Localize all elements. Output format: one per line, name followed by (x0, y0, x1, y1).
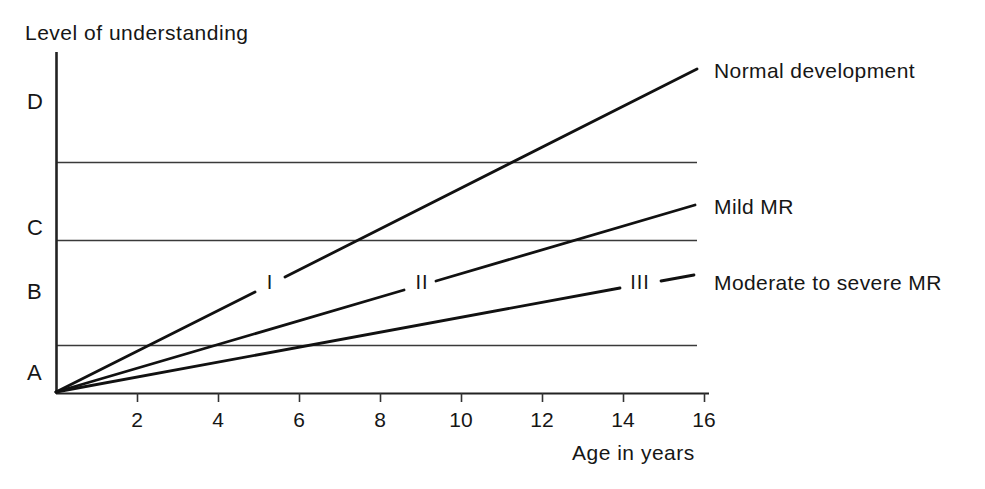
series-label-moderate-to-severe-mr: Moderate to severe MR (714, 272, 942, 293)
series-marker-iii: III (623, 272, 657, 292)
x-axis-title: Age in years (572, 442, 695, 463)
x-tick-label-14: 14 (603, 409, 643, 430)
chart-figure: Level of understanding D C B A 2 4 6 8 1… (0, 0, 985, 489)
series-line-moderate-segment-b (661, 275, 694, 281)
x-tick-label-12: 12 (522, 409, 562, 430)
y-tick-label-c: C (27, 217, 43, 239)
series-line-mild-segment-b (436, 205, 695, 281)
y-tick-label-d: D (27, 91, 43, 113)
y-axis-title: Level of understanding (25, 22, 249, 43)
x-tick-label-10: 10 (441, 409, 481, 430)
series-line-normal-segment-b (285, 69, 697, 277)
x-tick-label-8: 8 (360, 409, 400, 430)
x-tick-label-2: 2 (117, 409, 157, 430)
x-tick-label-6: 6 (279, 409, 319, 430)
series-label-mild-mr: Mild MR (714, 196, 794, 217)
x-tick-label-16: 16 (684, 409, 724, 430)
y-tick-label-b: B (27, 281, 42, 303)
series-line-moderate-segment-a (56, 288, 620, 392)
x-tick-label-4: 4 (198, 409, 238, 430)
series-marker-i: I (259, 272, 281, 292)
series-marker-ii: II (409, 272, 435, 292)
y-tick-label-a: A (27, 362, 42, 384)
series-label-normal-development: Normal development (714, 60, 915, 81)
